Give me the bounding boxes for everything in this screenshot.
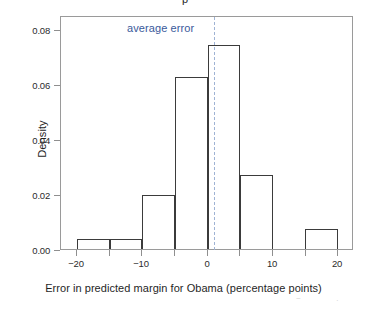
histogram-bar <box>208 45 241 250</box>
histogram-bar <box>240 175 273 249</box>
y-tick-label: 0.08 <box>10 25 50 36</box>
histogram-bar <box>110 239 143 249</box>
scan-artifact: · <box>336 296 339 305</box>
x-minor-tick-mark <box>174 250 175 256</box>
x-tick-mark <box>141 250 142 256</box>
x-tick-label: 20 <box>317 258 357 269</box>
x-axis-label: Error in predicted margin for Obama (per… <box>0 282 367 294</box>
x-minor-tick-mark <box>109 250 110 256</box>
histogram-figure: p 0.00 0.02 0.04 0.06 0.08 Density avera… <box>0 0 367 310</box>
x-tick-label: −10 <box>121 258 161 269</box>
average-error-label: average error <box>127 22 194 34</box>
y-axis-label: Density <box>36 79 48 199</box>
x-tick-mark <box>337 250 338 256</box>
x-tick-mark <box>207 250 208 256</box>
x-tick-mark <box>272 250 273 256</box>
x-tick-label: 10 <box>252 258 292 269</box>
scan-artifact: ~ <box>296 294 301 303</box>
histogram-bar <box>77 239 110 249</box>
histogram-bar <box>142 195 175 249</box>
average-error-line <box>214 17 215 250</box>
plot-area <box>60 16 353 250</box>
cropped-title-fragment: p <box>120 0 250 6</box>
y-tick-label: 0.00 <box>10 245 50 256</box>
histogram-bar <box>305 229 338 249</box>
histogram-bar <box>175 77 208 249</box>
x-minor-tick-mark <box>239 250 240 256</box>
y-tick-mark <box>54 250 60 251</box>
x-minor-tick-mark <box>305 250 306 256</box>
x-tick-label: 0 <box>187 258 227 269</box>
x-tick-label: −20 <box>56 258 96 269</box>
x-tick-mark <box>76 250 77 256</box>
